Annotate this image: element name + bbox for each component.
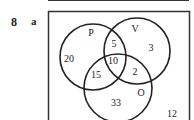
region-value-v-only: 3 bbox=[149, 42, 154, 53]
region-value-p-and-v-and-o: 10 bbox=[108, 55, 118, 66]
region-value-p-only: 20 bbox=[64, 53, 74, 64]
region-value-p-and-o-only: 15 bbox=[91, 69, 101, 80]
set-label-o: O bbox=[137, 87, 144, 98]
region-value-o-only: 33 bbox=[111, 97, 121, 108]
region-value-outside: 12 bbox=[167, 108, 177, 119]
region-value-p-and-v-only: 5 bbox=[112, 38, 117, 49]
set-label-v: V bbox=[131, 23, 139, 34]
region-value-v-and-o-only: 2 bbox=[133, 66, 138, 77]
set-label-p: P bbox=[88, 27, 94, 38]
venn-diagram: PVO 2053101523312 bbox=[0, 0, 194, 120]
